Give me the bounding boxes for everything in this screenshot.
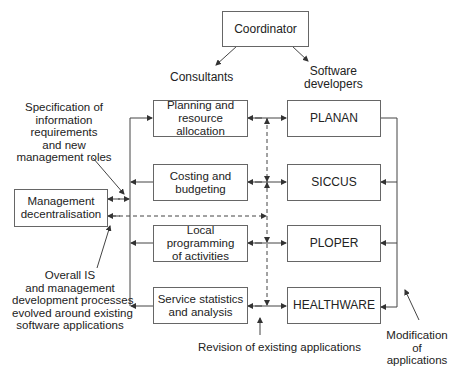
function-line1: Local programming	[154, 224, 247, 250]
app-label: PLOPER	[310, 237, 359, 250]
management-line1: Management	[27, 195, 94, 208]
function-line1: Costing and	[170, 170, 231, 183]
annotation-line: applications	[374, 354, 452, 367]
app-box-siccus: SICCUS	[287, 164, 381, 201]
modification-annotation: Modification of applications	[374, 329, 452, 367]
annotation-line: Specification of	[16, 101, 112, 114]
revision-annotation: Revision of existing applications	[198, 341, 361, 354]
coordinator-label: Coordinator	[234, 23, 297, 36]
app-box-healthware: HEALTHWARE	[287, 287, 381, 324]
function-line2: and analysis	[169, 306, 233, 319]
annotation-line: software applications	[12, 319, 128, 332]
coordinator-box: Coordinator	[222, 11, 309, 47]
consultants-label: Consultants	[170, 71, 233, 84]
annotation-line: information	[16, 114, 112, 127]
function-box-service-statistics: Service statistics and analysis	[153, 287, 248, 324]
annotation-line: Overall IS	[12, 269, 128, 282]
function-box-planning: Planning and resource allocation	[153, 100, 248, 137]
function-line2: of activities	[172, 250, 229, 263]
annotation-line: management roles	[16, 151, 112, 164]
software-developers-label: Software developers	[304, 65, 363, 91]
revision-text: Revision of existing applications	[198, 341, 361, 353]
annotation-line: requirements	[16, 126, 112, 139]
annotation-line: and new	[16, 139, 112, 152]
function-box-local-programming: Local programming of activities	[153, 225, 248, 262]
annotation-line: Modification	[374, 329, 452, 342]
management-line2: decentralisation	[21, 208, 102, 221]
app-box-planan: PLANAN	[287, 100, 381, 137]
management-decentralisation-box: Management decentralisation	[14, 189, 108, 227]
annotation-line: evolved around existing	[12, 307, 128, 320]
software-developers-line2: developers	[304, 78, 363, 91]
app-label: PLANAN	[310, 112, 358, 125]
consultants-text: Consultants	[170, 70, 233, 84]
specification-annotation: Specification of information requirement…	[16, 101, 112, 164]
function-line2: resource allocation	[154, 112, 247, 138]
app-label: SICCUS	[311, 176, 356, 189]
function-line2: budgeting	[175, 183, 226, 196]
function-line1: Service statistics	[158, 293, 244, 306]
function-line1: Planning and	[167, 99, 234, 112]
annotation-line: of	[374, 342, 452, 355]
overall-annotation: Overall IS and management development pr…	[12, 269, 128, 332]
annotation-line: development processes	[12, 294, 128, 307]
app-box-ploper: PLOPER	[287, 225, 381, 262]
app-label: HEALTHWARE	[293, 299, 375, 312]
function-box-costing: Costing and budgeting	[153, 164, 248, 201]
annotation-line: and management	[12, 282, 128, 295]
